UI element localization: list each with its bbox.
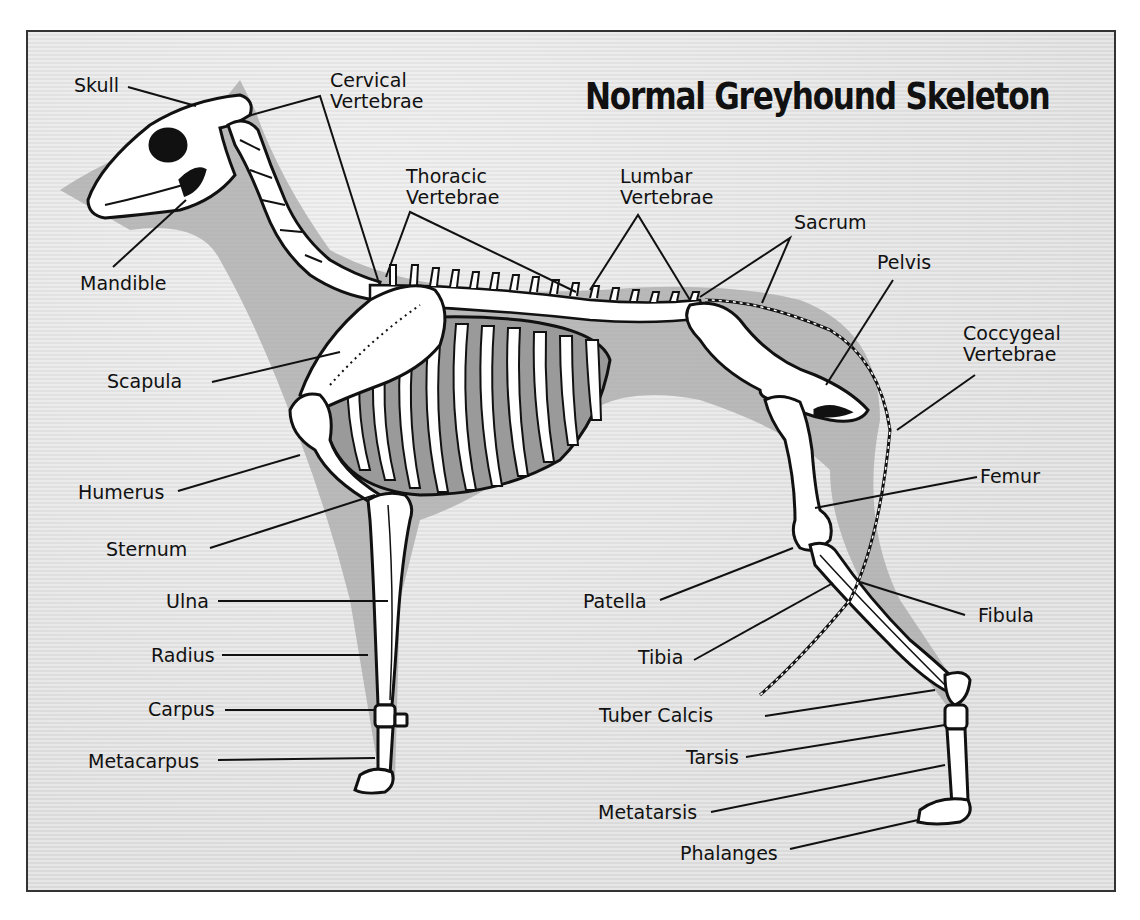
greyhound-skeleton-illustration — [0, 0, 1140, 920]
label-thoracic-line1: Thoracic — [406, 166, 499, 187]
label-sacrum: Sacrum — [794, 211, 867, 233]
label-cervical-vertebrae: Cervical Vertebrae — [330, 70, 423, 112]
label-lumbar-line1: Lumbar — [620, 166, 713, 187]
leader-skull — [128, 87, 196, 106]
label-mandible: Mandible — [80, 272, 166, 294]
label-femur: Femur — [980, 465, 1040, 487]
label-ulna: Ulna — [166, 590, 209, 612]
label-scapula: Scapula — [107, 370, 182, 392]
leader-humerus — [178, 455, 300, 491]
label-fibula: Fibula — [978, 604, 1034, 626]
label-radius: Radius — [151, 644, 215, 666]
diagram-title: Normal Greyhound Skeleton — [585, 74, 1049, 118]
label-coccygeal-line1: Coccygeal — [963, 323, 1061, 344]
label-skull: Skull — [74, 74, 119, 96]
label-humerus: Humerus — [78, 481, 164, 503]
label-sternum: Sternum — [106, 538, 187, 560]
label-tuber-calcis: Tuber Calcis — [599, 704, 713, 726]
label-cervical-line1: Cervical — [330, 70, 423, 91]
label-lumbar-line2: Vertebrae — [620, 187, 713, 208]
leader-patella — [660, 548, 793, 600]
label-coccygeal-line2: Vertebrae — [963, 344, 1061, 365]
leader-phalanges — [790, 820, 918, 849]
label-metacarpus: Metacarpus — [88, 750, 199, 772]
label-pelvis: Pelvis — [877, 251, 931, 273]
label-tibia: Tibia — [638, 646, 683, 668]
label-patella: Patella — [583, 590, 647, 612]
leader-tibia — [694, 583, 833, 660]
label-cervical-line2: Vertebrae — [330, 91, 423, 112]
leader-tuber-calcis — [765, 690, 935, 716]
leader-coccygeal — [897, 375, 975, 430]
label-phalanges: Phalanges — [680, 842, 778, 864]
leader-tarsis — [746, 725, 945, 757]
label-coccygeal-vertebrae: Coccygeal Vertebrae — [963, 323, 1061, 365]
leader-metatarsis — [711, 765, 945, 812]
leader-metacarpus — [218, 758, 375, 760]
label-thoracic-vertebrae: Thoracic Vertebrae — [406, 166, 499, 208]
label-thoracic-line2: Vertebrae — [406, 187, 499, 208]
label-carpus: Carpus — [148, 698, 215, 720]
label-metatarsis: Metatarsis — [598, 801, 697, 823]
label-tarsis: Tarsis — [686, 746, 739, 768]
label-lumbar-vertebrae: Lumbar Vertebrae — [620, 166, 713, 208]
